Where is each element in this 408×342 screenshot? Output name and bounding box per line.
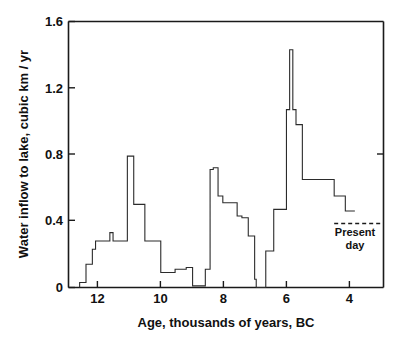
x-tick-label: 12: [90, 291, 104, 306]
x-tick-label: 8: [220, 291, 227, 306]
inflow-step-chart: 1.6 1.2 0.8 0.4 0 12 10 8 6 4 Water infl…: [0, 0, 408, 342]
x-tick-label: 4: [346, 291, 354, 306]
y-tick-label: 0.4: [45, 213, 64, 228]
y-tick-label: 1.2: [45, 81, 63, 96]
chart-figure: 1.6 1.2 0.8 0.4 0 12 10 8 6 4 Water infl…: [0, 0, 408, 342]
y-axis-title: Water inflow to lake, cubic km / yr: [16, 50, 31, 258]
y-tick-label: 0: [56, 280, 63, 295]
x-tick-label: 10: [153, 291, 167, 306]
present-day-label-line1: Present: [335, 226, 376, 238]
y-tick-label: 0.8: [45, 147, 63, 162]
present-day-label-line2: day: [346, 239, 366, 251]
x-tick-label: 6: [283, 291, 290, 306]
y-tick-label: 1.6: [45, 14, 63, 29]
x-axis-title: Age, thousands of years, BC: [138, 315, 316, 330]
